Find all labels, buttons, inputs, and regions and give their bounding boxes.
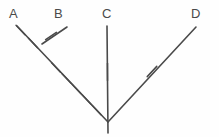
figure-background xyxy=(0,0,219,137)
diagram-canvas xyxy=(0,0,219,137)
ray-diagram-figure: A B C D xyxy=(0,0,219,137)
